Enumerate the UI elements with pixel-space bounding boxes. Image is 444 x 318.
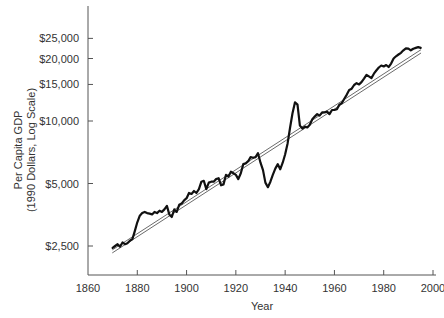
- y-tick-label: $15,000: [39, 78, 79, 90]
- y-tick-label: $20,000: [39, 53, 79, 65]
- x-tick-label: 1960: [322, 282, 346, 294]
- trend-line: [113, 50, 421, 250]
- y-axis-label: Per Capita GDP (1990 Dollars, Log Scale): [12, 88, 37, 212]
- x-tick-label: 1940: [273, 282, 297, 294]
- gdp-line-chart: Per Capita GDP (1990 Dollars, Log Scale)…: [0, 0, 444, 318]
- x-tick-label: 1980: [371, 282, 395, 294]
- y-tick-label: $5,000: [45, 178, 79, 190]
- y-axis-ticks: $2,500$5,000$10,000$15,000$20,000$25,000: [39, 32, 93, 252]
- x-tick-label: 2000: [421, 282, 444, 294]
- trend-line: [113, 53, 421, 253]
- x-tick-label: 1880: [125, 282, 149, 294]
- x-axis-ticks: 18601880190019201940196019802000: [76, 270, 444, 294]
- series-layer: [113, 47, 421, 253]
- gdp-series-line: [113, 47, 421, 248]
- x-tick-label: 1860: [76, 282, 100, 294]
- y-axis-label-line-2: (1990 Dollars, Log Scale): [25, 88, 37, 212]
- x-axis-label: Year: [251, 300, 274, 312]
- x-tick-label: 1920: [224, 282, 248, 294]
- y-axis-label-line-1: Per Capita GDP: [12, 111, 24, 190]
- x-tick-label: 1900: [174, 282, 198, 294]
- y-tick-label: $10,000: [39, 115, 79, 127]
- y-tick-label: $2,500: [45, 240, 79, 252]
- y-tick-label: $25,000: [39, 32, 79, 44]
